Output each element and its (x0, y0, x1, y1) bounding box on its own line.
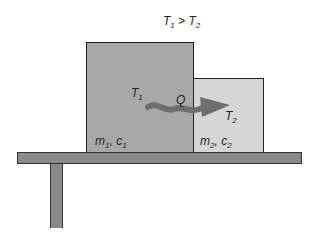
block-2-props-label: m2, c2 (200, 134, 232, 150)
heat-label: Q (176, 93, 185, 107)
block-1-props-label: m1, c1 (95, 134, 127, 150)
block-2-temp-label: T2 (225, 109, 237, 125)
condition-label: T1 > T2 (163, 14, 200, 30)
block-1-temp-label: T1 (131, 86, 143, 102)
table-top (17, 152, 302, 164)
table-leg (50, 164, 63, 228)
